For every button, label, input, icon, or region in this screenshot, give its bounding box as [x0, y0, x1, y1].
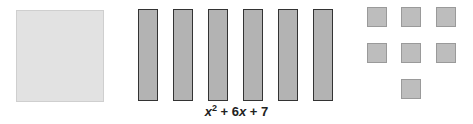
unit-tile — [367, 43, 387, 63]
unit-tile — [436, 43, 456, 63]
x-bar-tile — [173, 9, 193, 101]
expression-label: x2 + 6x + 7 — [0, 103, 473, 119]
unit-tile — [367, 7, 387, 27]
x-squared-tile — [16, 10, 104, 102]
x-bar-tile — [313, 9, 333, 101]
unit-tile — [401, 43, 421, 63]
constant-7: + 7 — [246, 104, 268, 119]
unit-tile — [401, 7, 421, 27]
unit-tile — [436, 7, 456, 27]
x-bar-tile — [208, 9, 228, 101]
unit-tile — [401, 79, 421, 99]
var-x: x — [205, 104, 212, 119]
x-bar-tile — [243, 9, 263, 101]
x-bar-tile — [138, 9, 158, 101]
x-bar-tile — [278, 9, 298, 101]
coef-6: + 6 — [217, 104, 239, 119]
